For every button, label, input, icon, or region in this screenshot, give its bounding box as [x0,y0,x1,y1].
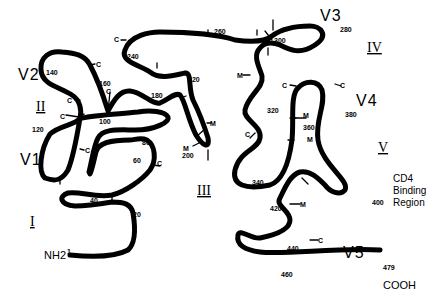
cysteine-marker: C [114,36,119,43]
cysteine-marker: C [67,97,72,104]
label-region-iv: IV [367,40,382,55]
residue-1: 1 [67,248,71,255]
gp120-diagram: 1 20 40 60 80 100 120 140 160 180 200 22… [0,0,447,303]
cysteine-marker: C [157,160,162,167]
residue-400: 400 [372,199,384,206]
glycosylation-marker: M [210,120,216,127]
label-v2: V2 [18,66,40,83]
disulfide-bonds [80,31,308,203]
label-region-iii: III [197,183,211,198]
residue-140: 140 [46,69,58,76]
glycosylation-marker: M [303,112,309,119]
cysteine-marker: C [60,113,65,120]
disulfide-bond [302,178,308,184]
residue-440: 440 [287,245,299,252]
residue-220: 220 [188,76,200,83]
residue-280: 280 [340,26,352,33]
residue-100: 100 [99,118,111,125]
cysteine-marker: C [85,147,90,154]
residue-360: 360 [303,124,315,131]
cd4-binding-annotation: CD4 Binding Region [393,173,426,208]
residue-20: 20 [133,211,141,218]
residue-40: 40 [90,197,98,204]
cd4-label-line3: Region [393,197,425,208]
cysteine-marker: C [245,131,250,138]
c-terminus-label: COOH [383,279,416,291]
cysteine-marker: C [96,61,101,68]
residue-240: 240 [127,53,139,60]
residue-80: 80 [142,139,150,146]
residue-380: 380 [345,111,357,118]
residue-320: 320 [267,107,279,114]
residue-479: 479 [383,264,395,271]
label-v4: V4 [356,92,378,109]
residue-460: 460 [281,271,293,278]
residue-180: 180 [151,92,163,99]
cysteine-marker: C [318,237,323,244]
label-region-i: I [30,214,35,229]
label-region-ii: II [36,99,46,114]
glycosylation-marker: M [237,72,243,79]
cysteine-marker: C [340,82,345,89]
n-terminus-label: NH2 [44,249,66,261]
residue-420: 420 [270,205,282,212]
glycosylation-marker: M [300,201,306,208]
glycosylation-marker: M [307,136,313,143]
cd4-label-line1: CD4 [393,173,413,184]
cysteine-marker: C [106,88,111,95]
residue-120: 120 [32,126,44,133]
residue-60: 60 [133,157,141,164]
label-v3: V3 [320,7,342,24]
glycosylation-marker: M [183,145,189,152]
backbone-strand [41,26,380,256]
cd4-label-line2: Binding [393,185,426,196]
residue-340: 340 [252,179,264,186]
diagram-svg: 1 20 40 60 80 100 120 140 160 180 200 22… [0,0,447,303]
residue-200: 200 [182,152,194,159]
label-v1: V1 [20,151,42,168]
residue-300: 300 [274,37,286,44]
label-v5: V5 [343,244,365,261]
cysteine-marker: C [282,82,287,89]
label-region-v: V [378,140,388,155]
residue-260: 260 [214,28,226,35]
residue-160: 160 [99,80,111,87]
